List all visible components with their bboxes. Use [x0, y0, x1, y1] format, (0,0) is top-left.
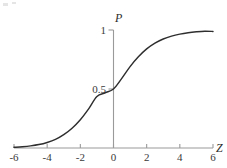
sigmoid-figure: -6-4-20246 0.51 P Z [0, 0, 227, 168]
x-axis-tick-label: -2 [76, 151, 85, 163]
x-axis-tick-label: 2 [144, 151, 150, 163]
y-axis-label-P: P [114, 11, 123, 25]
x-axis-tick-label: 4 [177, 151, 183, 163]
x-axis-label-Z: Z [216, 141, 223, 155]
scan-speck [3, 3, 8, 6]
x-axis-tick-label: -6 [9, 151, 19, 163]
x-axis-tick-label: 0 [111, 151, 117, 163]
chart-canvas: -6-4-20246 0.51 P Z [0, 0, 227, 168]
scan-speck [12, 2, 16, 4]
x-axis-tick-label: -4 [43, 151, 53, 163]
y-axis-tick-label: 1 [101, 24, 107, 36]
